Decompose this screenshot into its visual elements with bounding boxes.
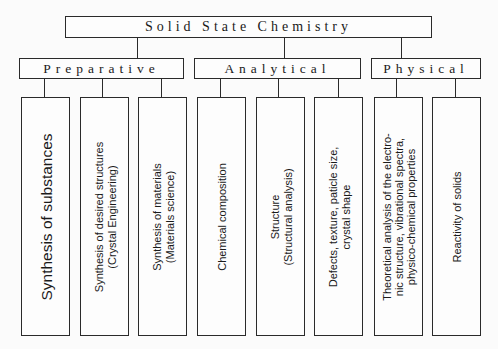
leaf-line: physico-chemical properties [405, 102, 417, 332]
category-label: Analytical [224, 61, 330, 77]
leaf-text: Synthesis of materials (Materials scienc… [150, 102, 175, 332]
connector-leaf-1 [44, 79, 45, 97]
leaf-theoretical-analysis: Theoretical analysis of the electro- nic… [374, 97, 423, 336]
leaf-chemical-composition: Chemical composition [197, 97, 246, 336]
root-label: Solid State Chemistry [145, 19, 352, 35]
connector-leaf-2 [102, 79, 103, 97]
leaf-line: (Structural analysis) [281, 102, 294, 332]
leaf-defects: Defects, texture, paticle size, crystal … [314, 97, 363, 336]
leaf-line: Defects, texture, paticle size, [326, 102, 339, 332]
connector-leaf-6 [338, 79, 339, 97]
connector-leaf-7 [396, 79, 397, 97]
category-label: Preparative [43, 61, 159, 77]
leaf-line: nic structure, vibrational spectra, [393, 102, 405, 332]
category-preparative: Preparative [19, 58, 184, 79]
leaf-line: (Materials science) [163, 102, 176, 332]
leaf-line: Structure [268, 102, 281, 332]
leaf-crystal-engineering: Synthesis of desired structures (Crystal… [80, 97, 129, 336]
connector-root-preparative [137, 38, 138, 58]
leaf-synthesis-of-substances: Synthesis of substances [21, 97, 70, 336]
category-analytical: Analytical [194, 58, 361, 79]
leaf-line: crystal shape [339, 102, 352, 332]
connector-leaf-8 [455, 79, 456, 97]
connector-root-physical [401, 38, 402, 58]
leaf-text: Synthesis of desired structures (Crystal… [92, 102, 117, 332]
leaf-text: Theoretical analysis of the electro- nic… [381, 102, 417, 332]
leaf-line: Synthesis of desired structures [92, 102, 105, 332]
leaf-line: Reactivity of solids [450, 102, 463, 332]
category-label: Physical [383, 61, 469, 77]
leaf-text: Chemical composition [215, 102, 228, 332]
category-physical: Physical [371, 58, 481, 79]
leaf-reactivity-of-solids: Reactivity of solids [432, 97, 481, 336]
leaf-line: Synthesis of substances [37, 102, 54, 332]
connector-leaf-3 [161, 79, 162, 97]
leaf-text: Synthesis of substances [37, 102, 54, 332]
root-node-solid-state-chemistry: Solid State Chemistry [65, 16, 432, 38]
leaf-materials-science: Synthesis of materials (Materials scienc… [138, 97, 187, 336]
leaf-structure: Structure (Structural analysis) [256, 97, 305, 336]
leaf-text: Reactivity of solids [450, 102, 463, 332]
leaf-text: Structure (Structural analysis) [268, 102, 293, 332]
leaf-line: Synthesis of materials [150, 102, 163, 332]
leaf-line: (Crystal Engineering) [105, 102, 118, 332]
connector-leaf-5 [278, 79, 279, 97]
leaf-line: Chemical composition [215, 102, 228, 332]
leaf-text: Defects, texture, paticle size, crystal … [326, 102, 351, 332]
connector-root-analytical [284, 38, 285, 58]
leaf-line: Theoretical analysis of the electro- [381, 102, 393, 332]
connector-leaf-4 [220, 79, 221, 97]
